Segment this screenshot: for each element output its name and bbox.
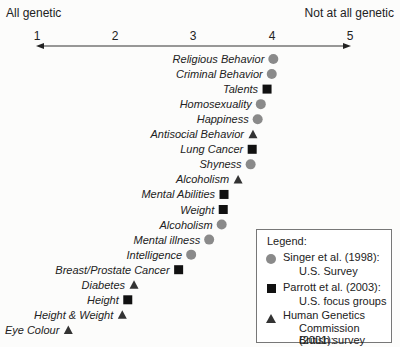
legend-title: Legend: [267, 235, 307, 247]
legend-entry-1-line2: U.S. Survey [299, 265, 358, 277]
point-label: Happiness [197, 113, 249, 125]
legend-entry-2-line1: Parrott et al. (2003): [283, 281, 381, 293]
point-label: Criminal Behavior [176, 68, 263, 80]
circle-marker-icon [204, 235, 214, 245]
legend-entry-2-line2: U.S. focus groups [299, 295, 386, 307]
point-label: Religious Behavior [173, 53, 265, 65]
point-label: Weight [180, 204, 214, 216]
triangle-marker-icon [130, 280, 139, 289]
circle-marker-icon [253, 114, 263, 124]
circle-marker-icon [217, 220, 227, 230]
point-label: Breast/Prostate Cancer [55, 264, 169, 276]
point-label: Alcoholism [159, 219, 212, 231]
triangle-marker-icon [248, 130, 257, 139]
square-marker-icon [263, 85, 272, 94]
circle-marker-icon [256, 99, 266, 109]
legend-entry-3-line1: Human Genetics [283, 309, 365, 321]
triangle-marker-icon [266, 314, 276, 323]
point-label: Eye Colour [5, 324, 59, 336]
square-marker-icon [174, 265, 183, 274]
square-marker-icon [248, 145, 257, 154]
circle-marker-icon [268, 54, 278, 64]
square-marker-icon [123, 295, 132, 304]
legend: Legend: Singer et al. (1998): U.S. Surve… [256, 229, 392, 343]
point-label: Homosexuality [180, 98, 252, 110]
circle-marker-icon [266, 254, 276, 264]
point-label: Intelligence [127, 249, 183, 261]
triangle-marker-icon [64, 325, 73, 334]
point-label: Talents [223, 83, 258, 95]
triangle-marker-icon [234, 175, 243, 184]
triangle-marker-icon [118, 310, 127, 319]
point-label: Shyness [199, 158, 241, 170]
circle-marker-icon [267, 69, 277, 79]
chart: All genetic Not at all genetic 1 2 3 4 5… [0, 0, 400, 347]
point-label: Antisocial Behavior [150, 128, 244, 140]
square-marker-icon [220, 190, 229, 199]
point-label: Height [87, 294, 119, 306]
point-label: Mental Abilities [141, 188, 215, 200]
point-label: Diabetes [82, 279, 125, 291]
circle-marker-icon [186, 250, 196, 260]
legend-entry-3-line3: British survey [299, 334, 365, 346]
point-label: Lung Cancer [180, 143, 243, 155]
point-label: Alcoholism [176, 173, 229, 185]
square-marker-icon [219, 205, 228, 214]
point-label: Mental illness [134, 234, 201, 246]
axis-arrow [36, 43, 351, 49]
point-label: Height & Weight [34, 309, 113, 321]
square-marker-icon [267, 284, 276, 293]
circle-marker-icon [246, 159, 256, 169]
legend-entry-1-line1: Singer et al. (1998): [283, 251, 380, 263]
